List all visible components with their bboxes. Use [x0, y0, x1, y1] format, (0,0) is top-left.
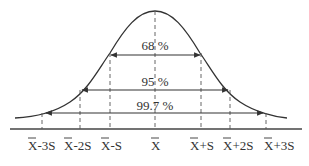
- svg-text:X: X: [151, 138, 161, 153]
- svg-text:X+2S: X+2S: [223, 138, 253, 153]
- axis-label-minus-3s: X-3S: [28, 138, 55, 153]
- normal-distribution-diagram: 68 % 95 % 99.7 % X-3S X-2S X-S X X+S X+2…: [0, 0, 309, 166]
- interval-label-99-7: 99.7 %: [137, 98, 174, 113]
- interval-label-68: 68 %: [141, 38, 168, 53]
- axis-label-minus-1s: X-S: [101, 138, 122, 153]
- axis-label-minus-2s: X-2S: [64, 138, 91, 153]
- axis-label-plus-3s: X+3S: [264, 138, 294, 153]
- axis-label-plus-1s: X+S: [190, 138, 214, 153]
- svg-text:X+S: X+S: [190, 138, 214, 153]
- interval-label-95: 95 %: [141, 74, 168, 89]
- svg-text:X-S: X-S: [101, 138, 122, 153]
- axis-label-mean: X: [151, 138, 161, 153]
- svg-text:X+3S: X+3S: [264, 138, 294, 153]
- svg-text:X-2S: X-2S: [64, 138, 91, 153]
- axis-label-plus-2s: X+2S: [223, 138, 253, 153]
- svg-text:X-3S: X-3S: [28, 138, 55, 153]
